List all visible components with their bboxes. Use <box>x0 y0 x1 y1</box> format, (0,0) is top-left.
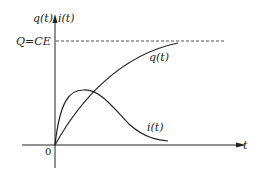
x-axis-label: t <box>243 139 248 152</box>
curve-i-label: i(t) <box>147 121 164 134</box>
origin-label: 0 <box>45 146 51 157</box>
curve-q-label: q(t) <box>149 51 169 64</box>
asymptote-label: Q=CE <box>16 35 51 48</box>
y-axis-label-i: i(t) <box>58 12 75 25</box>
y-axis-arrow-icon <box>53 14 58 23</box>
capacitor-charging-diagram: q(t) i(t) Q=CE q(t) i(t) t 0 <box>0 0 259 172</box>
y-axis-label-q: q(t) <box>33 12 53 25</box>
